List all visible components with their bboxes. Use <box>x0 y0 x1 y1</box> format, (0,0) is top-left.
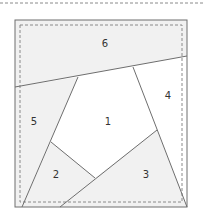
section-label-2: 2 <box>53 169 59 180</box>
section-label-1: 1 <box>105 116 111 127</box>
section-label-6: 6 <box>102 38 108 49</box>
section-label-3: 3 <box>143 169 149 180</box>
section-label-5: 5 <box>31 116 37 127</box>
section-label-4: 4 <box>165 90 171 101</box>
quilt-block-diagram: 6 4 5 1 2 3 <box>0 0 204 217</box>
